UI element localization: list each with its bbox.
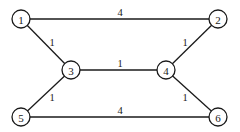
node-label-4: 4 — [163, 65, 169, 77]
node-4: 4 — [157, 61, 175, 79]
edge-weight-3-4: 1 — [117, 58, 122, 69]
edge-2-4 — [166, 19, 218, 70]
edge-4-6 — [166, 70, 218, 117]
graph-diagram: 4111114 123456 — [0, 0, 240, 132]
edge-weight-1-3: 1 — [49, 37, 54, 48]
edge-weight-3-5: 1 — [49, 92, 54, 103]
node-label-5: 5 — [18, 112, 24, 124]
edge-weight-4-6: 1 — [182, 92, 187, 103]
edge-weight-5-6: 4 — [117, 105, 123, 116]
node-label-2: 2 — [215, 14, 221, 26]
edge-weight-1-2: 4 — [117, 7, 123, 18]
node-label-6: 6 — [215, 112, 221, 124]
node-2: 2 — [209, 10, 227, 28]
node-5: 5 — [12, 108, 30, 126]
node-3: 3 — [62, 61, 80, 79]
edge-1-3 — [21, 19, 71, 70]
edge-weight-2-4: 1 — [182, 37, 187, 48]
node-1: 1 — [12, 10, 30, 28]
node-6: 6 — [209, 108, 227, 126]
node-label-1: 1 — [18, 14, 24, 26]
edge-3-5 — [21, 70, 71, 117]
node-label-3: 3 — [68, 65, 74, 77]
